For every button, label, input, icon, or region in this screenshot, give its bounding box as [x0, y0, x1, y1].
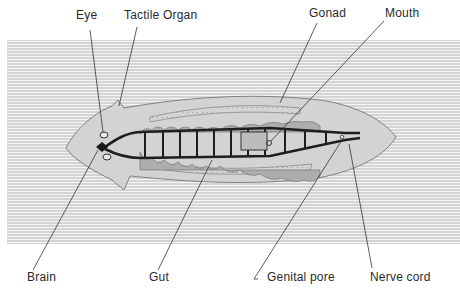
- label-mouth: Mouth: [385, 6, 419, 20]
- label-gonad: Gonad: [309, 6, 346, 20]
- label-gut: Gut: [149, 270, 169, 284]
- label-brain: Brain: [27, 270, 56, 284]
- genital-pore: [340, 135, 344, 139]
- eye-upper: [100, 132, 108, 138]
- label-nerve-cord: Nerve cord: [370, 270, 431, 284]
- pharynx: [241, 132, 267, 150]
- label-tactile-organ: Tactile Organ: [124, 8, 197, 22]
- eye-lower: [103, 154, 111, 160]
- flatworm-diagram: [0, 0, 460, 288]
- label-genital-pore: Genital pore: [267, 270, 335, 284]
- label-eye: Eye: [76, 8, 97, 22]
